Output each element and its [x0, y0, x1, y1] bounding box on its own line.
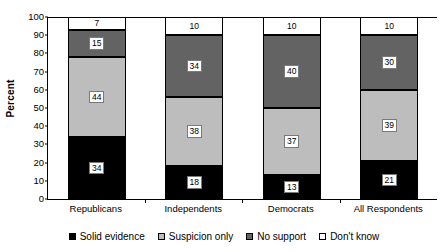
y-axis-tick-mark: [45, 71, 48, 72]
bar-value-label: 10: [383, 21, 396, 32]
legend-item[interactable]: Solid evidence: [69, 231, 145, 242]
legend-swatch-icon: [319, 233, 326, 240]
legend-item-label: Don't know: [330, 231, 379, 242]
x-axis-category-label: Independents: [138, 203, 248, 214]
bar-segment[interactable]: 37: [263, 108, 321, 175]
stacked-bar[interactable]: 18383410: [165, 17, 223, 199]
bar-segment[interactable]: 21: [360, 161, 418, 199]
y-axis-tick-mark: [45, 89, 48, 90]
x-axis-category-label: Republicans: [41, 203, 151, 214]
x-axis-category-label: Democrats: [236, 203, 346, 214]
bar-segment[interactable]: 30: [360, 35, 418, 90]
chart-container: Percent 10090807060504030201003444157183…: [0, 0, 448, 252]
bar-value-label: 39: [382, 119, 397, 132]
y-axis-tick-mark: [45, 35, 48, 36]
bar-value-label: 30: [382, 56, 397, 69]
x-axis-labels: RepublicansIndependentsDemocratsAll Resp…: [47, 203, 437, 219]
bar-value-label: 7: [92, 18, 101, 29]
bar-value-label: 21: [382, 174, 397, 187]
stacked-bar[interactable]: 13374010: [263, 17, 321, 199]
x-axis-category-label: All Respondents: [333, 203, 443, 214]
legend-item[interactable]: Don't know: [319, 231, 379, 242]
y-axis-tick-mark: [45, 144, 48, 145]
bar-group: 21393010: [360, 17, 418, 199]
bar-value-label: 10: [285, 21, 298, 32]
bar-value-label: 44: [89, 91, 104, 104]
bar-group: 13374010: [263, 17, 321, 199]
bar-group: 3444157: [68, 17, 126, 199]
bar-segment[interactable]: 10: [165, 17, 223, 35]
bar-segment[interactable]: 44: [68, 57, 126, 137]
y-axis-tick-mark: [45, 126, 48, 127]
legend-item-label: Suspicion only: [169, 231, 233, 242]
y-axis-tick-label: 100: [28, 12, 44, 22]
stacked-bar[interactable]: 21393010: [360, 17, 418, 199]
y-axis-tick-label: 90: [33, 30, 44, 40]
bar-value-label: 15: [89, 37, 104, 50]
plot-area: 1009080706050403020100344415718383410133…: [47, 17, 437, 199]
y-axis-title-label: Percent: [5, 79, 16, 117]
bar-value-label: 34: [187, 60, 202, 73]
bar-value-label: 13: [284, 181, 299, 194]
y-axis-tick-label: 70: [33, 67, 44, 77]
bar-value-label: 18: [187, 176, 202, 189]
bar-segment[interactable]: 10: [360, 17, 418, 35]
legend-swatch-icon: [69, 233, 76, 240]
y-axis-title: Percent: [2, 0, 18, 196]
bar-segment[interactable]: 13: [263, 175, 321, 199]
legend-swatch-icon: [246, 233, 253, 240]
stacked-bar[interactable]: 3444157: [68, 17, 126, 199]
y-axis-tick-label: 50: [33, 103, 44, 113]
y-axis-tick-mark: [45, 53, 48, 54]
y-axis-tick-label: 20: [33, 158, 44, 168]
bar-value-label: 38: [187, 125, 202, 138]
bar-value-label: 37: [284, 135, 299, 148]
legend-item-label: Solid evidence: [80, 231, 145, 242]
legend-item-label: No support: [257, 231, 306, 242]
bar-segment[interactable]: 38: [165, 97, 223, 166]
bar-segment[interactable]: 15: [68, 30, 126, 57]
bar-segment[interactable]: 34: [68, 137, 126, 199]
x-axis-tick-mark: [340, 199, 341, 203]
bar-value-label: 10: [188, 21, 201, 32]
bar-segment[interactable]: 39: [360, 90, 418, 161]
x-axis-tick-mark: [242, 199, 243, 203]
bar-group: 18383410: [165, 17, 223, 199]
bar-segment[interactable]: 10: [263, 17, 321, 35]
legend-item[interactable]: Suspicion only: [158, 231, 233, 242]
bar-value-label: 34: [89, 162, 104, 175]
legend-swatch-icon: [158, 233, 165, 240]
y-axis-tick-mark: [45, 108, 48, 109]
bar-segment[interactable]: 34: [165, 35, 223, 97]
x-axis-tick-mark: [145, 199, 146, 203]
bar-segment[interactable]: 7: [68, 17, 126, 30]
y-axis-tick-label: 80: [33, 49, 44, 59]
y-axis-tick-label: 10: [33, 176, 44, 186]
bar-segment[interactable]: 40: [263, 35, 321, 108]
bar-value-label: 40: [284, 65, 299, 78]
y-axis-tick-mark: [45, 162, 48, 163]
bar-segment[interactable]: 18: [165, 166, 223, 199]
y-axis-tick-mark: [45, 17, 48, 18]
legend-item[interactable]: No support: [246, 231, 306, 242]
y-axis-tick-mark: [45, 180, 48, 181]
chart-legend: Solid evidenceSuspicion onlyNo supportDo…: [0, 231, 448, 242]
y-axis-tick-label: 30: [33, 140, 44, 150]
y-axis-tick-label: 40: [33, 121, 44, 131]
y-axis-tick-label: 60: [33, 85, 44, 95]
